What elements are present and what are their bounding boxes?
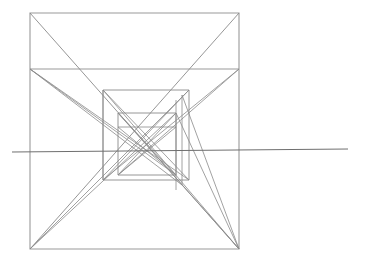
perspective-diagram-canvas xyxy=(0,0,371,267)
converge-right-to-second-bl xyxy=(103,69,239,180)
fan-bl-to-second-tr xyxy=(30,90,189,249)
horizon-line-group xyxy=(12,149,348,152)
horizon-line xyxy=(12,149,348,152)
fan-br-to-third-tr xyxy=(176,113,239,249)
fan-br-to-third-tl xyxy=(118,113,239,249)
converge-right-to-third-bl xyxy=(118,69,239,175)
fan-br-to-post-top xyxy=(182,95,239,249)
bottom-fan-group xyxy=(30,90,239,249)
right-posts-group xyxy=(176,95,182,190)
